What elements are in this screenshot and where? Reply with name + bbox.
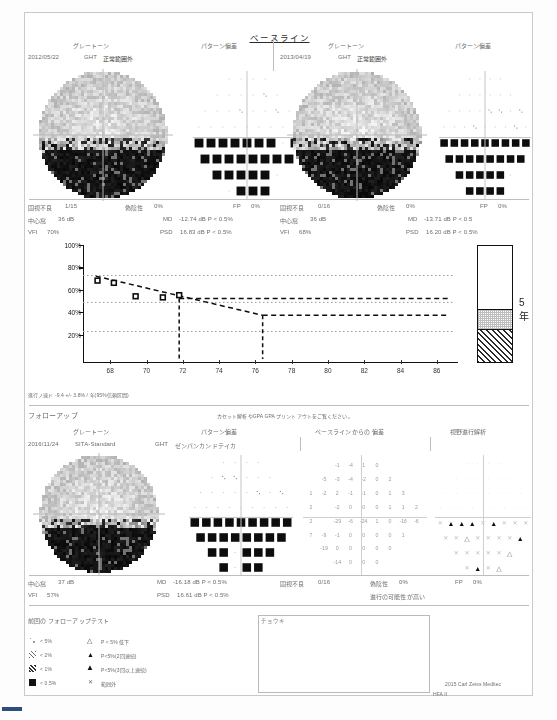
baseline-plot-underline [29,199,529,200]
progression-dot-icon: · [498,490,500,496]
device-text: HFA II [433,691,447,697]
vfi-ytick-mark-1 [79,267,84,268]
progression-dot-icon: · [455,490,457,496]
bl-right-fp-value: 0% [498,203,507,209]
bl-right-falseneg-label: 偽陰性 [377,203,395,212]
bl-left-fovea-label: 中心窩 [28,216,46,225]
bl-left-vfi-label: VFI [28,229,38,235]
deviation-cell: -29 [334,518,342,524]
legend-divider [29,605,529,606]
fu-psd-value: 16.61 dB P < 0.5% [177,592,229,598]
vfi-xtick-3: 74 [215,367,222,374]
vfi-ytick-mark-2 [79,290,84,291]
deviation-cell: 0 [362,504,365,510]
fu-progression-plot: ···························✕▲▲▲✕▲✕✕✕✕✕△✕… [435,455,531,575]
fu-vfi-label: VFI [28,592,38,598]
vfi-bar-hatched-segment [478,330,512,362]
deviation-cell: -6 [414,518,419,524]
deviation-cell: -5 [322,476,327,482]
progression-dot-icon: · [498,460,500,466]
bl-right-fovea-value: 36 dB [310,216,326,222]
deviation-cell: 0 [375,462,378,468]
progression-x-icon: ✕ [438,520,443,526]
deviation-cell: -16 [400,518,408,524]
fu-vfi-value: 57% [47,592,59,598]
fu-patterndev-plot [189,455,293,575]
progression-dot-icon: · [519,490,521,496]
vfi-xtick-0: 68 [107,367,114,374]
vfi-xtick-4: 76 [252,367,259,374]
deviation-cell: 0 [362,532,365,538]
baseline-left-graytone-plot [33,69,173,201]
bl-left-fp-value: 0% [251,203,260,209]
fu-patterndev-label: パターン偏差 [201,427,238,436]
legend-triangle-filled-icon: ▲ [86,664,94,672]
progression-filled-triangle-icon: ▲ [458,519,465,526]
baseline-right-graytone-label: グレートーン [328,41,365,50]
progression-dot-icon: · [455,475,457,481]
deviation-cell: 0 [362,559,365,565]
legend-label-tp5: P < 5% 低下 [101,638,129,645]
vfi-xtick-5: 78 [288,367,295,374]
vfi-five-year-bar [477,245,513,363]
progression-x-icon: ✕ [475,550,480,556]
deviation-cell: 2 [389,476,392,482]
legend-triangle-half-icon: ▲ [87,651,94,658]
vfi-xtick-6: 80 [324,367,331,374]
deviation-cell: -14 [334,559,342,565]
deviation-cell: 3 [402,490,405,496]
bl-left-md-value: -12.74 dB P < 0.5% [179,216,233,222]
progression-open-triangle-icon: △ [464,534,469,541]
fu-progression-label: 視野進行解析 [450,427,487,436]
fu-fp-label: FP [455,579,463,585]
fu-baseline-deviation-grid: -1-410-5-3-4-2021-22-1-10132-20001122-29… [303,455,427,575]
progression-x-icon: ✕ [486,535,491,541]
vfi-xtick-mark-8 [401,360,402,364]
deviation-cell: 0 [375,532,378,538]
bl-left-fixation-value: 1/15 [65,203,77,209]
progression-x-icon: ✕ [507,535,512,541]
bl-left-psd-value: 16.83 dB P < 0.5% [180,229,232,235]
progression-dot-icon: · [445,490,447,496]
vfi-xtick-9: 86 [433,367,440,374]
bl-right-vfi-value: 68% [299,229,311,235]
deviation-vertical-axis [361,455,362,575]
deviation-cell: 0 [349,559,352,565]
deviation-cell: 0 [375,545,378,551]
progression-dot-icon: · [503,505,505,511]
bl-right-psd-label: PSD [406,229,419,235]
deviation-cell: 1 [375,518,378,524]
bl-left-falseneg-value: 0% [154,203,163,209]
bl-left-psd-label: PSD [160,229,173,235]
progression-dot-icon: · [450,505,452,511]
progression-filled-triangle-icon: ▲ [490,519,497,526]
progression-horizontal-axis [435,517,531,518]
progression-dot-icon: · [509,475,511,481]
deviation-cell: 0 [375,504,378,510]
progression-dot-icon: · [498,475,500,481]
baseline-left-ght-label: GHT [84,54,97,60]
deviation-cell: 2 [309,518,312,524]
progression-x-icon: ✕ [464,550,469,556]
comment-box[interactable] [258,615,430,693]
vfi-xtick-mark-2 [183,360,184,364]
legend-label-p5: < 5% [40,638,52,644]
vfi-xtick-mark-1 [147,360,148,364]
legend-symbol-p05 [29,679,36,686]
deviation-cell: 1 [389,490,392,496]
deviation-cell: 2 [415,504,418,510]
bl-right-psd-value: 16.20 dB P < 0.5% [426,229,478,235]
deviation-cell: -6 [348,518,353,524]
legend-label-p05: < 0.5% [40,680,56,686]
progression-x-icon: ✕ [486,565,491,571]
deviation-cell: -1 [335,462,340,468]
progression-x-icon: ✕ [523,520,528,526]
baseline-right-patterndev-plot [439,71,531,199]
deviation-cell: 0 [389,532,392,538]
baseline-left-graytone-label: グレートーン [73,41,110,50]
deviation-cell: -1 [348,490,353,496]
copyright-text: 2015 Carl Zeiss Meditec [445,681,501,687]
deviation-cell: 7 [309,532,312,538]
progression-filled-triangle-icon: ▲ [469,519,476,526]
progression-dot-icon: · [487,460,489,466]
